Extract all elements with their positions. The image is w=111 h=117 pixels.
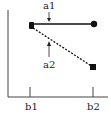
series-a2-line bbox=[33, 28, 93, 67]
series-a1-end-marker bbox=[91, 21, 97, 27]
annotation-a2: a2 bbox=[43, 59, 55, 70]
tick-label-b1: b1 bbox=[25, 101, 38, 112]
arrow-a2-head-icon bbox=[47, 41, 51, 46]
series-a2-end-marker bbox=[90, 64, 96, 70]
start-marker bbox=[29, 22, 34, 29]
diagram: b1 b2 a1 a2 bbox=[0, 0, 111, 117]
arrow-a1-head-icon bbox=[47, 18, 51, 22]
annotation-a1: a1 bbox=[43, 0, 55, 11]
tick-label-b2: b2 bbox=[87, 101, 100, 112]
